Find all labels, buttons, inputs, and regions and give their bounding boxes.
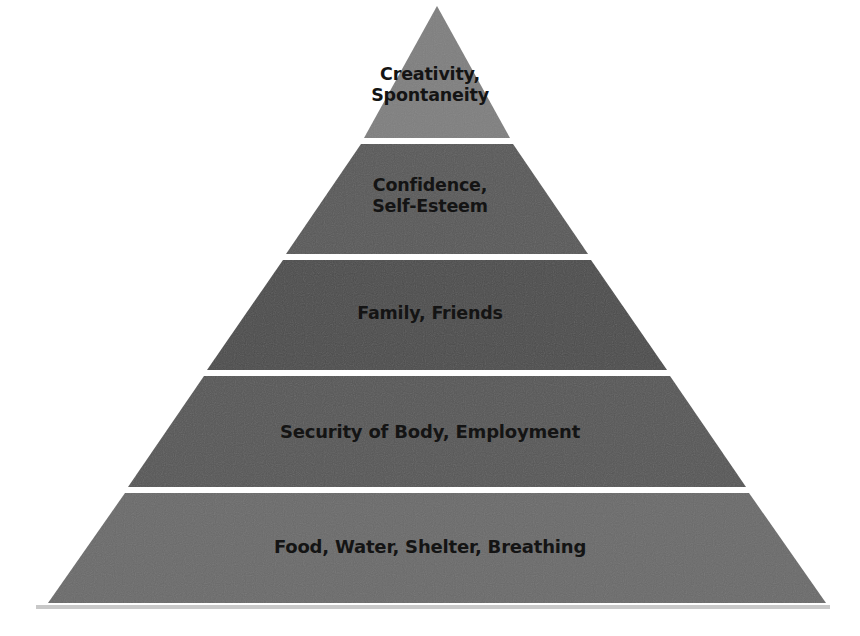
- layer-4-label: Security of Body, Employment: [0, 421, 860, 442]
- layer-5-line-1: Food, Water, Shelter, Breathing: [0, 536, 860, 557]
- layer-3-label: Family, Friends: [0, 303, 860, 324]
- layer-1-line-2: Spontaneity: [0, 85, 860, 106]
- layer-2-line-1: Confidence,: [0, 175, 860, 196]
- layer-2-line-2: Self-Esteem: [0, 196, 860, 217]
- layer-2-label: Confidence, Self-Esteem: [0, 175, 860, 216]
- layer-1-line-1: Creativity,: [0, 64, 860, 85]
- layer-3-line-1: Family, Friends: [0, 303, 860, 324]
- pyramid-base-shadow: [36, 605, 830, 609]
- layer-5-label: Food, Water, Shelter, Breathing: [0, 536, 860, 557]
- layer-4-line-1: Security of Body, Employment: [0, 421, 860, 442]
- layer-1-label: Creativity, Spontaneity: [0, 64, 860, 105]
